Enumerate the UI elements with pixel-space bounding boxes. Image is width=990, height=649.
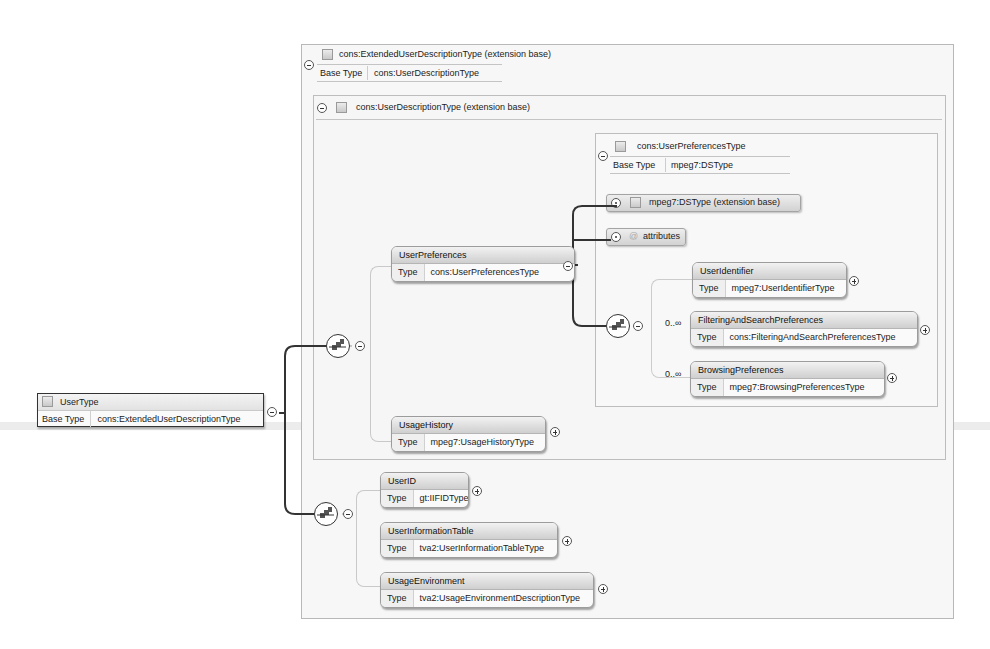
element-type-label: Type: [693, 280, 726, 297]
element-type-value: cons:FilteringAndSearchPreferencesType: [724, 329, 902, 346]
collapse-sequence-icon[interactable]: [343, 509, 353, 519]
element-usage-history[interactable]: UsageHistory Type mpeg7:UsageHistoryType: [391, 416, 546, 452]
element-name: BrowsingPreferences: [691, 362, 884, 379]
element-type-label: Type: [691, 379, 724, 396]
collapse-sequence-icon[interactable]: [633, 321, 643, 331]
element-name: UsageEnvironment: [381, 573, 593, 590]
element-name: UserInformationTable: [381, 523, 557, 540]
sequence-compositor-icon[interactable]: [606, 314, 630, 338]
complex-type-icon: [42, 396, 53, 407]
element-name: UserID: [381, 473, 468, 490]
element-type-label: Type: [392, 264, 425, 281]
sequence-compositor-icon[interactable]: [314, 502, 338, 526]
element-name: UsageHistory: [392, 417, 545, 434]
element-type-label: Type: [381, 540, 414, 557]
collapse-sequence-icon[interactable]: [355, 341, 365, 351]
element-name: UserIdentifier: [693, 263, 846, 280]
element-type-value: cons:UserPreferencesType: [425, 264, 546, 281]
element-user-id[interactable]: UserID Type gt:IIFIDType: [380, 472, 469, 508]
element-type-label: Type: [381, 590, 414, 607]
element-browsing-preferences[interactable]: BrowsingPreferences Type mpeg7:BrowsingP…: [690, 361, 885, 397]
expand-usage-environment-icon[interactable]: [598, 584, 608, 594]
element-type-label: Type: [381, 490, 414, 507]
user-type-base-type-label: Base Type: [38, 411, 91, 427]
expand-user-identifier-icon[interactable]: [849, 276, 859, 286]
element-user-preferences[interactable]: UserPreferences Type cons:UserPreference…: [391, 246, 575, 282]
element-user-information-table[interactable]: UserInformationTable Type tva2:UserInfor…: [380, 522, 558, 558]
expand-user-information-table-icon[interactable]: [562, 536, 572, 546]
expand-user-id-icon[interactable]: [472, 486, 482, 496]
multiplicity-label: 0..∞: [665, 369, 681, 379]
collapse-user-type-icon[interactable]: [267, 407, 277, 417]
element-type-value: gt:IIFIDType: [414, 490, 469, 507]
element-filtering-and-search-preferences[interactable]: FilteringAndSearchPreferences Type cons:…: [690, 311, 918, 347]
element-type-value: mpeg7:UsageHistoryType: [425, 434, 541, 451]
element-name: FilteringAndSearchPreferences: [691, 312, 917, 329]
element-type-value: tva2:UsageEnvironmentDescriptionType: [414, 590, 587, 607]
collapse-user-preferences-icon[interactable]: [563, 261, 573, 271]
sequence-compositor-icon[interactable]: [326, 334, 350, 358]
element-usage-environment[interactable]: UsageEnvironment Type tva2:UsageEnvironm…: [380, 572, 594, 608]
user-type-box[interactable]: UserType Base Type cons:ExtendedUserDesc…: [37, 393, 264, 427]
multiplicity-label: 0..∞: [665, 318, 681, 328]
expand-usage-history-icon[interactable]: [550, 427, 560, 437]
element-type-label: Type: [691, 329, 724, 346]
user-type-base-type-value: cons:ExtendedUserDescriptionType: [91, 411, 246, 427]
element-type-value: mpeg7:BrowsingPreferencesType: [724, 379, 871, 396]
element-name: UserPreferences: [392, 247, 574, 264]
element-type-value: tva2:UserInformationTableType: [414, 540, 551, 557]
element-type-label: Type: [392, 434, 425, 451]
element-type-value: mpeg7:UserIdentifierType: [726, 280, 841, 297]
user-type-name: UserType: [60, 397, 99, 407]
element-user-identifier[interactable]: UserIdentifier Type mpeg7:UserIdentifier…: [692, 262, 847, 298]
expand-filtering-icon[interactable]: [920, 325, 930, 335]
expand-browsing-icon[interactable]: [887, 373, 897, 383]
